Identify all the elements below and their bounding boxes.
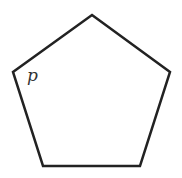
- vertex-label-p: p: [27, 67, 38, 84]
- pentagon-shape: [13, 15, 170, 166]
- diagram-canvas: [0, 0, 182, 178]
